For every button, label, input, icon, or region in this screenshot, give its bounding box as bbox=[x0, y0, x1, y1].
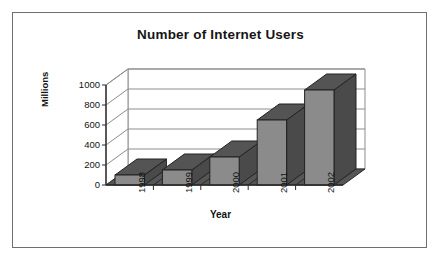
x-tick-label-2001: 2001 bbox=[278, 172, 289, 193]
y-tick-label: 600 bbox=[66, 119, 100, 130]
x-tick-label-1998: 1998 bbox=[136, 172, 147, 193]
y-tick-label: 200 bbox=[66, 159, 100, 170]
y-tick-label: 400 bbox=[66, 139, 100, 150]
plot-area: Millions 0 200 400 600 800 1000 1998 199… bbox=[13, 13, 428, 249]
chart-frame: Number of Internet Users Millions 0 200 … bbox=[12, 12, 427, 248]
screenshot-page: Number of Internet Users Millions 0 200 … bbox=[0, 0, 444, 264]
y-tick-label: 800 bbox=[66, 99, 100, 110]
bar-side-2002 bbox=[334, 74, 356, 185]
y-axis-title: Millions bbox=[39, 91, 50, 107]
bar-2002 bbox=[305, 74, 356, 185]
x-tick-label-2002: 2002 bbox=[325, 172, 336, 193]
y-tick-label: 0 bbox=[66, 179, 100, 190]
x-tick-label-2000: 2000 bbox=[230, 172, 241, 193]
y-tick-label: 1000 bbox=[66, 79, 100, 90]
x-tick-label-1999: 1999 bbox=[183, 172, 194, 193]
bar-front-2002 bbox=[305, 90, 334, 185]
x-axis-title: Year bbox=[13, 209, 428, 220]
